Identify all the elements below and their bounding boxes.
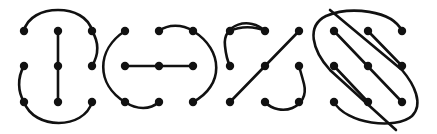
bottom-left-arc — [125, 102, 159, 108]
panel-2 — [103, 26, 216, 108]
top-left-arc-cap — [230, 27, 265, 31]
panel-4 — [314, 10, 418, 130]
dot-pattern-figure — [0, 0, 437, 134]
top-right-arc — [159, 26, 193, 31]
panel-1 — [19, 10, 97, 123]
diagonal-line-2 — [368, 31, 402, 66]
left-arc — [19, 66, 24, 102]
diagonal-line-3 — [334, 66, 368, 102]
right-arc — [92, 31, 97, 66]
panel-3 — [225, 23, 305, 109]
s-curve — [314, 11, 402, 130]
